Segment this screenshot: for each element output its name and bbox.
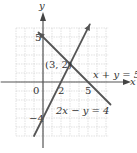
x-tick-label: 5: [85, 85, 91, 96]
intersection-label: (3, 2): [45, 59, 72, 70]
equation-lines: [34, 24, 111, 136]
system-of-equations-graph: x y 0255−4 x + y = 5 2x − y = 4 (3, 2): [0, 0, 137, 153]
y-axis-label: y: [38, 0, 45, 11]
line-2x-minus-y-eq-4: [34, 24, 90, 136]
x-tick-label: 0: [33, 85, 39, 96]
line-label-x-plus-y: x + y = 5: [93, 69, 137, 80]
line-label-2x-minus-y: 2x − y = 4: [55, 105, 110, 116]
y-axis-arrow-icon: [40, 12, 46, 21]
